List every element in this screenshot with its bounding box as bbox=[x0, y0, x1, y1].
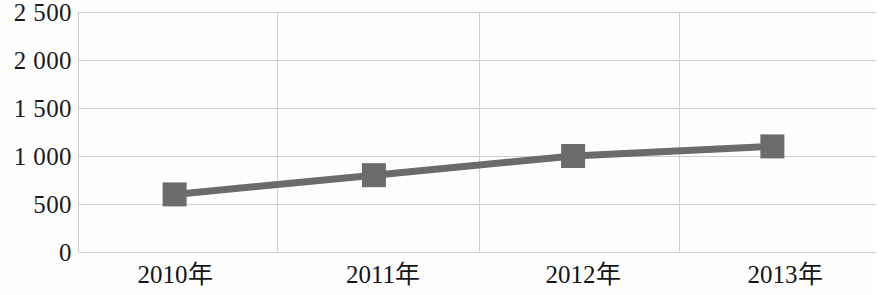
y-axis: 2 500 2 000 1 500 1 000 500 0 bbox=[0, 0, 74, 295]
x-tick-label: 2013年 bbox=[685, 260, 880, 290]
y-tick-label: 2 000 bbox=[0, 48, 72, 73]
plot-area bbox=[78, 12, 875, 252]
series-markers bbox=[163, 134, 785, 206]
data-point-marker bbox=[163, 182, 187, 206]
gridline-horizontal bbox=[79, 252, 876, 253]
data-point-marker bbox=[760, 134, 784, 158]
y-tick-label: 1 000 bbox=[0, 144, 72, 169]
y-tick-label: 0 bbox=[0, 240, 72, 265]
data-point-marker bbox=[561, 144, 585, 168]
y-tick-label: 1 500 bbox=[0, 96, 72, 121]
data-series bbox=[79, 12, 876, 252]
data-point-marker bbox=[362, 163, 386, 187]
x-tick-label: 2012年 bbox=[483, 260, 683, 290]
y-tick-label: 500 bbox=[0, 192, 72, 217]
x-axis: 2010年 2011年 2012年 2013年 bbox=[78, 256, 875, 295]
x-tick-label: 2011年 bbox=[283, 260, 483, 290]
y-tick-label: 2 500 bbox=[0, 0, 72, 25]
x-tick-label: 2010年 bbox=[75, 260, 275, 290]
series-line bbox=[175, 146, 773, 194]
